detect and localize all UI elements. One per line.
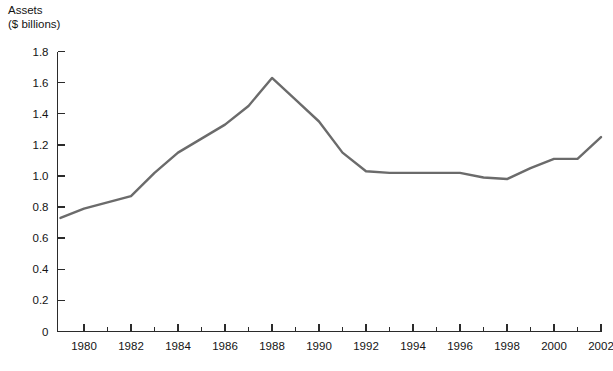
x-tick-label: 1990 xyxy=(306,340,332,352)
y-tick-label: 1.0 xyxy=(33,170,49,182)
y-tick-label: 1.6 xyxy=(33,77,49,89)
y-tick-label: 1.4 xyxy=(33,108,50,120)
x-tick-label: 2000 xyxy=(541,340,567,352)
y-tick-label: 1.2 xyxy=(33,139,49,151)
y-tick-label: 0.2 xyxy=(33,294,49,306)
x-tick-label: 1980 xyxy=(71,340,97,352)
x-tick-label: 1996 xyxy=(447,340,473,352)
x-tick-label: 1984 xyxy=(165,340,191,352)
y-axis-title-line1: Assets xyxy=(8,4,43,16)
assets-line-chart: Assets ($ billions) 1.81.61.41.21.00.80.… xyxy=(0,0,613,371)
x-tick-label: 1986 xyxy=(212,340,238,352)
y-axis-title-group: Assets ($ billions) xyxy=(8,4,61,30)
x-tick-label: 2002 xyxy=(588,340,613,352)
y-tick-label: 0.6 xyxy=(33,232,49,244)
y-tick-label: 0 xyxy=(42,326,48,338)
y-tick-label: 0.4 xyxy=(33,263,50,275)
x-tick-label: 1992 xyxy=(353,340,379,352)
chart-canvas: Assets ($ billions) 1.81.61.41.21.00.80.… xyxy=(0,0,613,371)
y-axis-title-line2: ($ billions) xyxy=(8,18,61,30)
x-tick-label: 1998 xyxy=(494,340,520,352)
y-tick-label: 1.8 xyxy=(33,46,49,58)
x-axis-tick-labels: 1980198219841986198819901992199419961998… xyxy=(71,340,613,352)
assets-series-line xyxy=(61,78,602,218)
x-tick-label: 1994 xyxy=(400,340,426,352)
x-tick-label: 1982 xyxy=(118,340,144,352)
y-axis-ticks xyxy=(58,52,65,332)
y-tick-label: 0.8 xyxy=(33,201,49,213)
x-tick-label: 1988 xyxy=(259,340,285,352)
y-axis-tick-labels: 1.81.61.41.21.00.80.60.40.20 xyxy=(33,46,50,338)
